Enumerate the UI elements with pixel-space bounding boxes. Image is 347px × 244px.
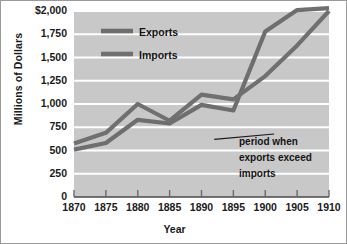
legend-label-exports: Exports <box>139 26 178 38</box>
x-axis-title: Year <box>1 223 347 235</box>
y-tick-label: 1,250 <box>5 74 67 86</box>
y-tick-label: 750 <box>5 120 67 132</box>
y-tick-label: 1,750 <box>5 27 67 39</box>
y-tick-label: $2,000 <box>5 4 67 16</box>
annotation-line-2: exports exceed <box>239 152 312 163</box>
x-tick-label: 1910 <box>309 201 347 213</box>
y-tick-label: 1,000 <box>5 97 67 109</box>
y-tick-label: 500 <box>5 144 67 156</box>
annotation-line-1: period when <box>239 136 298 147</box>
y-tick-label: 250 <box>5 167 67 179</box>
legend-label-imports: Imports <box>139 49 178 61</box>
annotation-line-3: imports <box>239 168 276 179</box>
chart-figure: Millions of Dollars Year $2,0001,7501,50… <box>0 0 347 244</box>
y-tick-label: 1,500 <box>5 51 67 63</box>
